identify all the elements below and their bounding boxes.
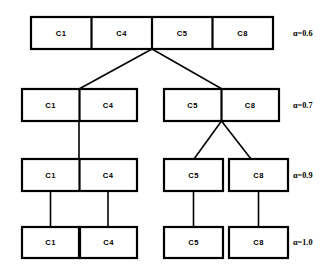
level-2-group: C1 C4 C5 C8	[22, 89, 279, 121]
cell-label-l4-c4: C4	[103, 238, 114, 247]
connectors-level-2-to-3	[79, 121, 251, 159]
level-1-group: C1 C4 C5 C8	[31, 17, 273, 49]
connector-l2-to-l3-right-b	[222, 121, 252, 159]
connector-l1-to-l2-left	[79, 49, 152, 89]
level-4-group: C1 C4 C5 C8	[22, 227, 288, 258]
cell-label-l2-c4: C4	[103, 101, 114, 110]
cell-label-l4-c8: C8	[253, 238, 263, 247]
cell-label-l1-c1: C1	[56, 29, 67, 38]
cell-label-l1-c4: C4	[116, 29, 127, 38]
alpha-label-level-2: α=0.7	[293, 101, 312, 110]
alpha-labels-column: α=0.6 α=0.7 α=0.9 α=1.0	[293, 29, 312, 247]
connector-l2-to-l3-right-a	[194, 121, 222, 159]
diagram-canvas: C1 C4 C5 C8 C1 C4 C5 C8	[0, 0, 336, 278]
level-3-group: C1 C4 C5 C8	[22, 159, 288, 191]
connector-l1-to-l2-right	[152, 49, 222, 89]
cell-label-l1-c5: C5	[177, 29, 188, 38]
cell-label-l4-c5: C5	[188, 238, 199, 247]
cell-label-l2-c8: C8	[245, 101, 255, 110]
cell-label-l3-c5: C5	[188, 171, 199, 180]
alpha-label-level-3: α=0.9	[293, 171, 312, 180]
connectors-level-3-to-4	[51, 191, 259, 227]
cell-label-l2-c5: C5	[187, 101, 198, 110]
cell-label-l3-c8: C8	[253, 171, 263, 180]
cell-label-l2-c1: C1	[45, 101, 56, 110]
cell-label-l3-c4: C4	[103, 171, 114, 180]
cell-label-l4-c1: C1	[45, 238, 56, 247]
connectors-level-1-to-2	[79, 49, 222, 89]
clustering-dendrogram: C1 C4 C5 C8 C1 C4 C5 C8	[0, 0, 336, 278]
cell-label-l1-c8: C8	[237, 29, 247, 38]
alpha-label-level-1: α=0.6	[293, 29, 312, 38]
alpha-label-level-4: α=1.0	[293, 238, 312, 247]
cell-label-l3-c1: C1	[45, 171, 56, 180]
